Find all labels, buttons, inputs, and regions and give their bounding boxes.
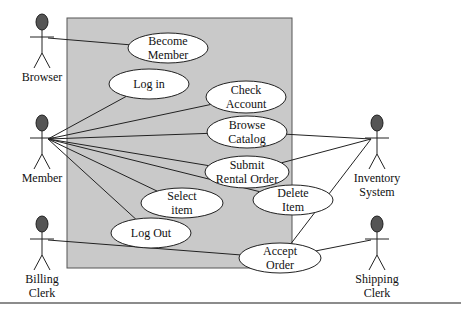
actor-billing[interactable]: BillingClerk — [25, 216, 58, 300]
use-case-delete[interactable]: DeleteItem — [253, 185, 333, 215]
use-case-label: Become — [148, 34, 187, 48]
actor-label: Billing — [25, 272, 58, 286]
actor-head-icon — [36, 115, 48, 131]
actor-label: Shipping — [355, 272, 398, 286]
actor-label: Member — [22, 171, 63, 185]
use-case-diagram: BecomeMemberLog inCheckAccountBrowseCata… — [0, 0, 461, 324]
actor-shipping[interactable]: ShippingClerk — [355, 216, 398, 300]
association-line — [287, 134, 371, 139]
actor-head-icon — [371, 115, 383, 131]
actor-label: System — [359, 185, 395, 199]
actor-inventory[interactable]: InventorySystem — [354, 115, 401, 199]
actor-label: Clerk — [29, 286, 56, 300]
use-case-label: Log in — [133, 77, 165, 91]
use-case-submit[interactable]: SubmitRental Order — [205, 156, 289, 188]
use-case-label: Rental Order — [216, 172, 278, 186]
use-case-browse[interactable]: BrowseCatalog — [207, 116, 287, 148]
use-case-label: Member — [148, 48, 189, 62]
use-case-check[interactable]: CheckAccount — [206, 81, 286, 113]
use-case-label: Catalog — [228, 132, 265, 146]
use-case-label: Delete — [277, 186, 308, 200]
use-case-select[interactable]: Selectitem — [141, 188, 223, 218]
use-case-login[interactable]: Log in — [109, 69, 189, 99]
use-case-label: Browse — [229, 118, 266, 132]
association-line — [316, 240, 371, 251]
actor-head-icon — [36, 14, 48, 30]
actor-head-icon — [36, 216, 48, 232]
actor-head-icon — [371, 216, 383, 232]
actor-label: Clerk — [364, 286, 391, 300]
use-case-label: Log Out — [131, 226, 172, 240]
use-case-label: Item — [282, 200, 305, 214]
actor-label: Browser — [22, 70, 63, 84]
use-case-label: Account — [226, 97, 267, 111]
actor-browser[interactable]: Browser — [22, 14, 63, 84]
use-case-logout[interactable]: Log Out — [111, 218, 191, 248]
association-line — [281, 139, 371, 163]
use-case-label: item — [171, 203, 193, 217]
use-case-label: Submit — [230, 158, 265, 172]
actor-label: Inventory — [354, 171, 401, 185]
use-case-label: Order — [266, 258, 294, 272]
actor-member[interactable]: Member — [22, 115, 63, 185]
use-case-label: Select — [167, 189, 197, 203]
use-case-label: Accept — [263, 244, 298, 258]
use-case-label: Check — [231, 83, 262, 97]
use-case-accept[interactable]: AcceptOrder — [239, 243, 321, 273]
use-case-become[interactable]: BecomeMember — [128, 33, 208, 63]
